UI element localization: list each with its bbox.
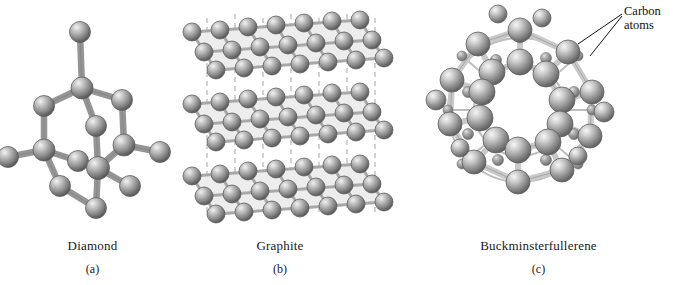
carbon-atoms-line-2: atoms bbox=[624, 18, 661, 32]
carbon-atoms-line-1: Carbon bbox=[624, 4, 661, 18]
panel-diamond: Diamond (a) bbox=[0, 0, 185, 285]
carbon-allotropes-figure: Diamond (a) bbox=[0, 0, 677, 285]
panel-c-letter: (c) bbox=[400, 262, 677, 277]
panel-b-letter: (b) bbox=[160, 262, 400, 277]
panel-a-letter: (a) bbox=[0, 262, 185, 277]
buckminsterfullerene-structure-diagram bbox=[400, 0, 677, 235]
carbon-atoms-leader-lines bbox=[578, 14, 622, 56]
graphene-layer bbox=[183, 83, 393, 151]
diamond-structure-diagram bbox=[0, 0, 185, 235]
diamond-atoms bbox=[0, 22, 171, 219]
panel-a-label: Diamond bbox=[0, 238, 185, 254]
graphene-layer bbox=[183, 11, 393, 79]
graphene-layer bbox=[183, 155, 393, 223]
panel-b-label: Graphite bbox=[160, 238, 400, 254]
graphite-structure-diagram bbox=[160, 0, 400, 235]
carbon-atoms-annotation: Carbon atoms bbox=[624, 4, 661, 32]
panel-buckminsterfullerene: Buckminsterfullerene (c) bbox=[400, 0, 677, 285]
panel-graphite: Graphite (b) bbox=[160, 0, 400, 285]
panel-c-label: Buckminsterfullerene bbox=[400, 238, 677, 254]
